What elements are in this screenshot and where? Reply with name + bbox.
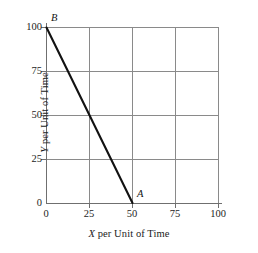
x-tick-label-75: 75 (155, 209, 195, 220)
y-tick-label-100: 100 (2, 22, 42, 33)
chart-svg (38, 19, 234, 219)
x-tick-label-0: 0 (26, 209, 66, 220)
y-axis-title-variable: Y (39, 147, 50, 153)
y-axis-title-rest: per Unit of Time (39, 72, 50, 147)
x-tick-label-50: 50 (112, 209, 152, 220)
x-tick-label-25: 25 (69, 209, 109, 220)
y-tick-label-0: 0 (2, 198, 42, 209)
plot-area (46, 27, 218, 203)
y-tick-label-50: 50 (2, 110, 42, 121)
y-tick-label-25: 25 (2, 154, 42, 165)
chart-screenshot: 100 75 50 25 0 0 25 50 75 100 B A X per … (0, 0, 258, 253)
x-tick-label-100: 100 (198, 209, 238, 220)
x-axis-title: X per Unit of Time (0, 228, 258, 239)
x-tick-label-group: 0 25 50 75 100 (0, 209, 258, 223)
y-axis-title: Y per Unit of Time (39, 25, 50, 201)
x-axis-title-rest: per Unit of Time (95, 228, 170, 239)
y-tick-label-75: 75 (2, 66, 42, 77)
point-label-b: B (51, 13, 57, 24)
point-label-a: A (137, 189, 143, 200)
